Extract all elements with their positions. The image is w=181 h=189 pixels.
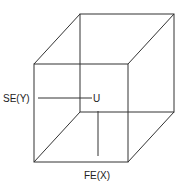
edge-top-left [34,14,80,64]
edge-top-right [128,14,174,64]
cube-diagram: U SE(Y) FE(X) [0,0,181,189]
se-label: SE(Y) [3,93,30,104]
fe-label: FE(X) [84,170,110,181]
edge-bottom-left [34,112,80,162]
center-label: U [93,93,100,104]
cube-wireframe [34,14,174,162]
edge-bottom-right [128,112,174,162]
